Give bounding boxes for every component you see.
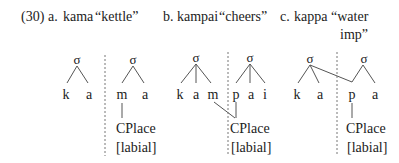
segment-b1-k: k — [177, 88, 184, 102]
segment-c2-a: a — [372, 88, 378, 102]
feature-a-value: [labial] — [116, 141, 156, 155]
syllable-node-a1: σ — [73, 53, 80, 66]
branch-a-s1-a — [77, 66, 88, 83]
syllable-node-c1: σ — [306, 52, 313, 65]
tree-lines — [0, 0, 399, 163]
feature-c-label: CPlace — [346, 122, 386, 136]
branch-b-s1-m — [196, 64, 211, 83]
branch-a-s1-k — [67, 66, 77, 83]
segment-a1-k: k — [63, 88, 70, 102]
segment-a2-m: m — [117, 88, 128, 102]
syllable-node-a2: σ — [129, 53, 136, 66]
syllable-node-c2: σ — [360, 52, 367, 65]
feature-b-label: CPlace — [230, 122, 270, 136]
segment-b2-a: a — [248, 88, 254, 102]
feature-b-value: [labial] — [231, 141, 271, 155]
segment-b2-p: p — [233, 88, 240, 102]
branch-c-s1-p-geminate — [310, 65, 352, 82]
feature-c-value: [labial] — [347, 141, 387, 155]
branch-b-s2-i — [250, 64, 265, 83]
assoc-b-m-cplace — [214, 102, 235, 118]
branch-c-s1-k — [298, 65, 310, 83]
segment-b2-i: i — [263, 88, 267, 102]
syllable-node-b1: σ — [192, 51, 199, 64]
branch-b-s2-p — [236, 64, 250, 83]
branch-a-s2-m — [122, 66, 133, 83]
syllable-node-b2: σ — [246, 51, 253, 64]
branch-a-s2-a — [133, 66, 144, 83]
segment-b1-a: a — [193, 88, 199, 102]
segment-c2-p: p — [349, 88, 356, 102]
feature-a-label: CPlace — [116, 122, 156, 136]
segment-c1-a: a — [317, 88, 323, 102]
branch-c-s2-a — [363, 65, 375, 83]
segment-a2-a: a — [142, 88, 148, 102]
segment-c1-k: k — [294, 88, 301, 102]
branch-c-s2-p — [352, 65, 363, 82]
segment-a1-a: a — [86, 88, 92, 102]
branch-b-s1-k — [181, 64, 196, 83]
segment-b1-m: m — [208, 88, 219, 102]
